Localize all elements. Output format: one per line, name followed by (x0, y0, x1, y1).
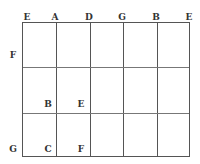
grid-hline (23, 113, 189, 114)
grid-vline (157, 23, 158, 156)
grid-hline (23, 67, 189, 68)
top-label-4: B (152, 13, 160, 22)
top-label-5: E (186, 13, 193, 22)
grid-vline (90, 23, 91, 156)
top-label-0: E (24, 13, 31, 22)
top-label-1: A (52, 13, 59, 22)
top-label-2: D (85, 13, 93, 22)
grid-vline (123, 23, 124, 156)
grid-vline (56, 23, 57, 156)
inner-label-c: C (44, 145, 51, 154)
top-label-3: G (118, 13, 126, 22)
inner-label-e: E (78, 100, 85, 109)
left-label-g: G (9, 145, 17, 154)
left-label-f: F (10, 51, 16, 60)
inner-label-b: B (44, 100, 52, 109)
grid (22, 22, 190, 157)
inner-label-f: F (78, 145, 84, 154)
